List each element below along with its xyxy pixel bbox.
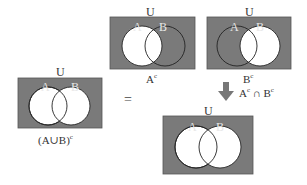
label-op: ∩: [250, 87, 263, 99]
set-a-label: A: [133, 20, 142, 34]
venn-diagram-b-complement: U A B: [207, 8, 295, 72]
caption-superscript: c: [250, 72, 253, 80]
caption-text: A: [146, 73, 154, 85]
set-b-label: B: [256, 20, 264, 34]
caption-a-complement: Ac: [146, 72, 157, 85]
caption-superscript: c: [154, 72, 157, 80]
equals-sign: =: [124, 92, 132, 108]
caption-a-union-b-complement: (A∪B)c: [38, 133, 73, 147]
set-a-circle: [122, 26, 162, 66]
arrow-label-intersection: Ac ∩ Bc: [239, 86, 274, 99]
universe-label: U: [245, 5, 254, 19]
set-b-label: B: [216, 120, 224, 134]
set-a-label: A: [41, 80, 50, 94]
set-a-label: A: [230, 20, 239, 34]
set-b-label: B: [71, 80, 79, 94]
universe-label: U: [146, 5, 155, 19]
universe-label: U: [204, 104, 213, 118]
venn-svg: U A B: [18, 68, 104, 130]
caption-superscript: c: [70, 133, 73, 141]
venn-diagram-a-union-b-complement: U A B: [18, 68, 104, 130]
universe-label: U: [56, 65, 65, 79]
venn-diagram-ac-intersect-bc: U A B: [163, 107, 255, 177]
set-a-label: A: [188, 120, 197, 134]
down-arrow-icon: [218, 82, 234, 106]
set-b-label: B: [159, 20, 167, 34]
label-b-sup: c: [271, 86, 274, 94]
caption-text: (A∪B): [38, 134, 70, 146]
label-a: A: [239, 87, 247, 99]
label-b: B: [264, 87, 271, 99]
venn-diagram-a-complement: U A B: [110, 8, 198, 72]
caption-b-complement: Bc: [243, 72, 253, 85]
